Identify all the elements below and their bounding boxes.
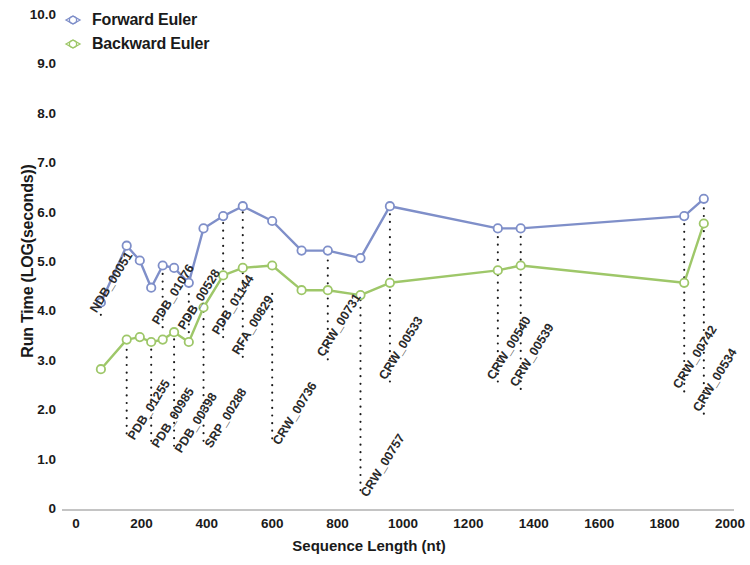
data-point-marker[interactable] [494, 266, 502, 274]
data-point-marker[interactable] [517, 224, 525, 232]
data-point-marker[interactable] [136, 333, 144, 341]
data-point-marker[interactable] [185, 338, 193, 346]
data-point-marker[interactable] [170, 328, 178, 336]
data-point-marker[interactable] [123, 335, 131, 343]
data-point-marker[interactable] [97, 365, 105, 373]
data-point-marker[interactable] [147, 284, 155, 292]
data-point-marker[interactable] [239, 264, 247, 272]
data-point-marker[interactable] [494, 224, 502, 232]
data-point-marker[interactable] [700, 219, 708, 227]
data-point-marker[interactable] [159, 261, 167, 269]
data-point-marker[interactable] [680, 279, 688, 287]
data-point-marker[interactable] [297, 286, 305, 294]
data-point-marker[interactable] [517, 261, 525, 269]
data-point-marker[interactable] [239, 202, 247, 210]
data-point-marker[interactable] [356, 254, 364, 262]
data-point-marker[interactable] [324, 286, 332, 294]
data-point-marker[interactable] [136, 256, 144, 264]
data-point-marker[interactable] [297, 246, 305, 254]
data-point-marker[interactable] [268, 217, 276, 225]
data-point-marker[interactable] [199, 224, 207, 232]
data-point-marker[interactable] [170, 264, 178, 272]
data-point-marker[interactable] [700, 195, 708, 203]
data-point-marker[interactable] [386, 202, 394, 210]
data-point-marker[interactable] [680, 212, 688, 220]
data-point-marker[interactable] [159, 335, 167, 343]
data-point-marker[interactable] [386, 279, 394, 287]
data-point-marker[interactable] [268, 261, 276, 269]
data-point-marker[interactable] [324, 246, 332, 254]
data-point-marker[interactable] [219, 212, 227, 220]
data-point-marker[interactable] [147, 338, 155, 346]
